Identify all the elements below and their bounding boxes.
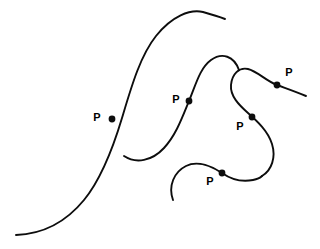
- figure-background: [0, 0, 320, 249]
- point-p-2-dot: [186, 98, 193, 105]
- figure-canvas: PPPPP: [0, 0, 320, 249]
- point-p-4-dot: [249, 114, 256, 121]
- point-p-1-dot: [109, 116, 116, 123]
- point-p-2-label: P: [172, 93, 179, 105]
- curve-figure-svg: PPPPP: [0, 0, 320, 249]
- point-p-5-label: P: [206, 175, 213, 187]
- point-p-1-label: P: [93, 111, 100, 123]
- point-p-5-dot: [219, 170, 226, 177]
- point-p-4-label: P: [236, 120, 243, 132]
- point-p-3-label: P: [285, 66, 292, 78]
- point-p-3-dot: [274, 82, 281, 89]
